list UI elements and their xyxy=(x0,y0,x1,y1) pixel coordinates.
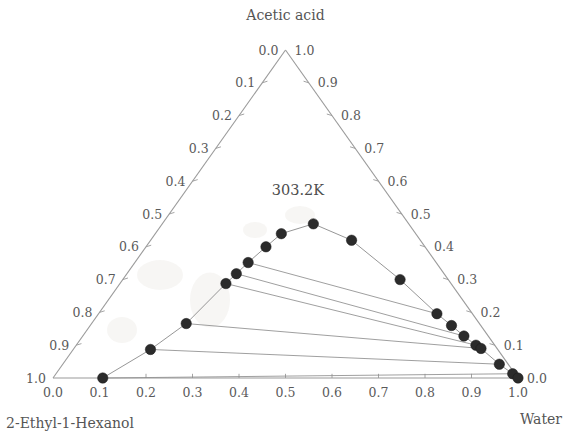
ternary-phase-diagram: 0.00.10.20.30.40.50.60.70.80.91.0 1.00.9… xyxy=(0,0,570,446)
plot-background xyxy=(0,0,570,446)
left-axis-tick-label: 0.9 xyxy=(49,338,69,353)
left-axis-tick-label: 0.5 xyxy=(142,207,162,222)
bottom-axis-tick-label: 1.0 xyxy=(508,385,528,400)
left-axis-tick-label: 0.6 xyxy=(119,239,139,254)
data-point xyxy=(432,309,442,319)
data-point xyxy=(446,320,456,330)
right-axis-tick-label: 0.1 xyxy=(504,338,524,353)
corner-label-hexanol: 2-Ethyl-1-Hexanol xyxy=(6,415,134,431)
right-axis-tick-label: 0.2 xyxy=(481,305,501,320)
data-point xyxy=(276,228,286,238)
temperature-annotation: 303.2K xyxy=(272,182,326,198)
data-point xyxy=(243,257,253,267)
data-point xyxy=(181,318,191,328)
right-axis-tick-label: 0.4 xyxy=(434,239,454,254)
left-axis-tick-label: 0.0 xyxy=(259,43,279,58)
corner-label-water: Water xyxy=(520,411,562,427)
bottom-axis-tick-label: 0.5 xyxy=(276,385,296,400)
left-axis-tick-label: 0.3 xyxy=(189,141,209,156)
right-axis-tick-label: 1.0 xyxy=(295,43,315,58)
right-axis-tick-label: 0.3 xyxy=(457,272,477,287)
right-axis-tick-label: 0.7 xyxy=(364,141,384,156)
bottom-axis-tick-label: 0.1 xyxy=(90,385,110,400)
scan-smudge xyxy=(137,260,183,290)
data-point xyxy=(476,343,486,353)
right-axis-tick-label: 0.6 xyxy=(388,174,408,189)
data-point xyxy=(395,274,405,284)
data-point xyxy=(221,278,231,288)
bottom-axis-tick-label: 0.8 xyxy=(415,385,435,400)
bottom-axis-tick-label: 0.6 xyxy=(322,385,342,400)
bottom-axis-tick-label: 0.3 xyxy=(183,385,203,400)
scan-smudge xyxy=(107,317,137,343)
bottom-axis-tick-label: 0.9 xyxy=(462,385,482,400)
data-point xyxy=(513,373,523,383)
left-axis-tick-label: 0.8 xyxy=(73,305,93,320)
right-axis-tick-label: 0.9 xyxy=(318,75,338,90)
data-point xyxy=(308,219,318,229)
data-point xyxy=(98,373,108,383)
left-axis-tick-label: 0.2 xyxy=(212,108,232,123)
right-axis-tick-label: 0.8 xyxy=(341,108,361,123)
left-axis-tick-label: 0.4 xyxy=(166,174,186,189)
data-point xyxy=(231,269,241,279)
bottom-axis-tick-label: 0.2 xyxy=(136,385,156,400)
bottom-axis-tick-label: 0.4 xyxy=(229,385,249,400)
right-axis-tick-label: 0.5 xyxy=(411,207,431,222)
data-point xyxy=(459,331,469,341)
data-point xyxy=(261,242,271,252)
apex-label-acetic-acid: Acetic acid xyxy=(245,7,324,23)
scan-smudge xyxy=(243,222,267,238)
data-point xyxy=(346,235,356,245)
right-axis-tick-label: 0.0 xyxy=(527,371,547,386)
left-axis-tick-label: 0.1 xyxy=(235,75,255,90)
bottom-axis-tick-label: 0.7 xyxy=(369,385,389,400)
bottom-axis-tick-label: 0.0 xyxy=(43,385,63,400)
data-point xyxy=(494,359,504,369)
data-point xyxy=(145,344,155,354)
left-axis-tick-label: 0.7 xyxy=(96,272,116,287)
left-axis-tick-label: 1.0 xyxy=(26,371,46,386)
